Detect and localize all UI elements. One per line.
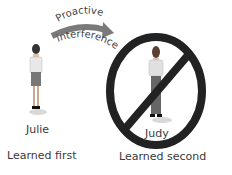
judy-name: Judy [145, 127, 169, 140]
julie-figure [29, 44, 47, 115]
arrow-label-top: Proactive [54, 4, 105, 23]
julie-caption: Learned first [7, 149, 77, 162]
julie-name: Julie [26, 123, 49, 136]
judy-caption: Learned second [119, 150, 206, 163]
